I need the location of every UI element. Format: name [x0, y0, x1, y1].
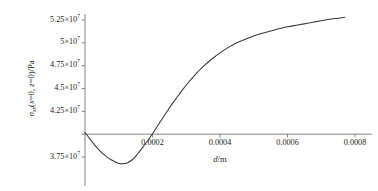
figure-container: 5.25×1075×1074.75×1074.5×1074.25×1073.75… [0, 0, 378, 191]
y-axis-tick-label: 3.75×107 [50, 153, 80, 161]
x-axis-tick-label: 0.0008 [331, 139, 378, 147]
y-axis-tick-label: 4.25×107 [50, 107, 80, 115]
tick-marks [82, 20, 355, 157]
x-axis-title: d/m [190, 155, 250, 164]
y-axis-tick-label: 4.75×107 [50, 61, 80, 69]
chart-plot-area [0, 0, 378, 191]
y-axis-title: σxx(x=0, z=0)/Pa [27, 23, 36, 153]
y-axis-tick-label: 4.5×107 [54, 84, 80, 92]
x-axis-tick-label: 0.0002 [129, 139, 177, 147]
x-axis-tick-label: 0.0006 [264, 139, 312, 147]
x-axis-tick-label: 0.0004 [196, 139, 244, 147]
y-axis-tick-label: 5.25×107 [50, 16, 80, 24]
y-axis-tick-label: 5×107 [60, 38, 80, 46]
